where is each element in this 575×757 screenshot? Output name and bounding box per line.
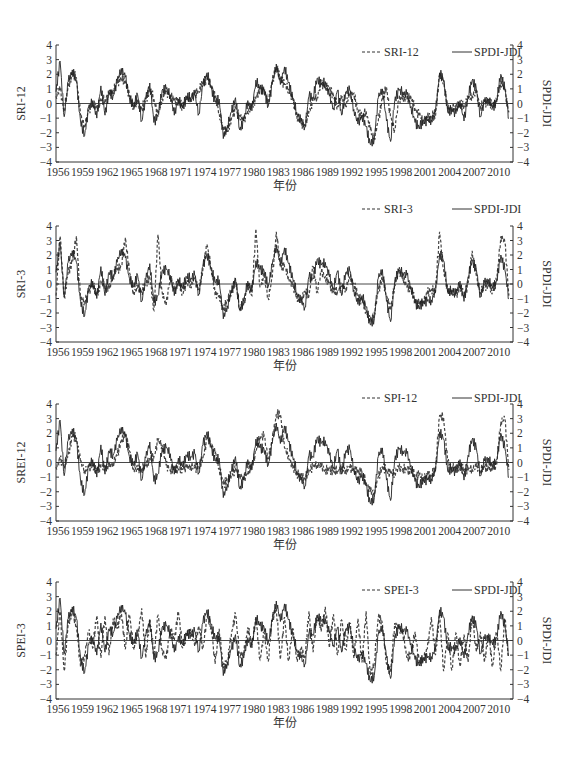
x-axis-label: 年份 [273, 359, 297, 373]
x-tick-label: 1995 [365, 346, 388, 358]
x-tick-label: 1968 [144, 166, 167, 178]
figure: 4433221100−1−1−2−2−3−3−4−419561959196219… [0, 0, 575, 757]
chart-panel-2: 4433221100−1−1−2−2−3−3−4−419561959196219… [14, 202, 554, 373]
x-tick-label: 1977 [218, 525, 241, 537]
y-tick-label-right: 3 [517, 235, 523, 247]
x-tick-label: 1992 [340, 166, 363, 178]
y-tick-label-left: 1 [46, 442, 52, 454]
x-axis-label: 年份 [273, 538, 297, 552]
x-tick-label: 2001 [414, 346, 437, 358]
legend: SPI-12SPDI-JDI [362, 391, 521, 405]
x-tick-label: 2004 [438, 525, 461, 537]
y-axis-label-right: SPDI-JDI [540, 439, 554, 486]
y-axis-label-right: SPDI-JDI [540, 617, 554, 664]
x-tick-label: 1989 [316, 703, 339, 715]
x-tick-label: 1980 [242, 703, 265, 715]
x-tick-label: 1956 [47, 525, 70, 537]
y-tick-label-left: 4 [46, 39, 52, 51]
y-tick-label-right: −4 [517, 336, 529, 348]
x-tick-label: 2007 [463, 166, 486, 178]
x-tick-label: 1992 [340, 525, 363, 537]
x-tick-label: 1962 [95, 525, 118, 537]
x-tick-label: 1962 [95, 166, 118, 178]
x-tick-label: 2001 [414, 166, 437, 178]
y-tick-label-left: 1 [46, 83, 52, 95]
x-tick-label: 1971 [169, 346, 192, 358]
y-tick-label-left: 2 [46, 427, 52, 439]
x-tick-label: 1974 [193, 703, 216, 715]
x-tick-label: 1998 [389, 166, 412, 178]
y-tick-label-right: −4 [517, 693, 529, 705]
x-tick-label: 2001 [414, 703, 437, 715]
y-tick-label-left: 1 [46, 264, 52, 276]
x-tick-label: 2007 [463, 525, 486, 537]
y-tick-label-left: 3 [46, 591, 52, 603]
y-tick-label-left: 4 [46, 220, 52, 232]
y-tick-label-right: 4 [517, 220, 523, 232]
x-tick-label: 1962 [95, 346, 118, 358]
y-tick-label-right: −2 [517, 486, 529, 498]
x-tick-label: 2010 [487, 166, 510, 178]
y-tick-label-right: −1 [517, 112, 529, 124]
x-tick-label: 1974 [193, 166, 216, 178]
x-tick-label: 1983 [267, 346, 290, 358]
y-tick-label-right: −4 [517, 515, 529, 527]
x-tick-label: 2007 [463, 703, 486, 715]
x-tick-label: 1992 [340, 703, 363, 715]
y-tick-label-left: 3 [46, 54, 52, 66]
x-tick-label: 1992 [340, 346, 363, 358]
y-tick-label-right: −3 [517, 500, 529, 512]
y-axis-label-right: SPDI-JDI [540, 260, 554, 307]
y-tick-label-right: 0 [517, 278, 523, 290]
x-tick-label: 1986 [291, 346, 314, 358]
y-tick-label-right: 2 [517, 427, 523, 439]
y-axis-label-left: SRI-12 [14, 86, 28, 121]
x-tick-label: 1995 [365, 525, 388, 537]
y-tick-label-right: −3 [517, 141, 529, 153]
x-tick-label: 1986 [291, 525, 314, 537]
y-tick-label-right: 2 [517, 605, 523, 617]
x-tick-label: 1959 [71, 346, 94, 358]
x-tick-label: 1989 [316, 525, 339, 537]
y-tick-label-right: 1 [517, 264, 523, 276]
x-tick-label: 1986 [291, 703, 314, 715]
y-tick-label-left: 4 [46, 398, 52, 410]
y-tick-label-right: 1 [517, 620, 523, 632]
x-tick-label: 2010 [487, 346, 510, 358]
x-tick-label: 1965 [120, 346, 143, 358]
legend-label: SRI-3 [384, 202, 413, 216]
y-tick-label-left: 3 [46, 413, 52, 425]
y-tick-label-right: 0 [517, 98, 523, 110]
legend: SPEI-3SPDI-JDI [362, 583, 521, 597]
x-tick-label: 1971 [169, 703, 192, 715]
legend-label: SPEI-3 [384, 583, 419, 597]
y-tick-label-left: −1 [40, 112, 52, 124]
legend-label: SPDI-JDI [474, 45, 521, 59]
y-tick-label-left: −3 [40, 500, 52, 512]
series-line-spi-12 [56, 409, 509, 495]
x-tick-label: 1977 [218, 346, 241, 358]
x-tick-label: 2010 [487, 525, 510, 537]
y-tick-label-right: 1 [517, 83, 523, 95]
y-axis-label-left: SPEI-3 [14, 623, 28, 658]
x-tick-label: 1980 [242, 166, 265, 178]
y-tick-label-left: 0 [46, 98, 52, 110]
y-tick-label-right: −2 [517, 664, 529, 676]
y-tick-label-right: −1 [517, 293, 529, 305]
y-tick-label-left: −3 [40, 322, 52, 334]
y-tick-label-left: −3 [40, 141, 52, 153]
y-tick-label-right: 0 [517, 635, 523, 647]
y-tick-label-left: −1 [40, 471, 52, 483]
series-line-sri-3 [56, 229, 509, 322]
x-tick-label: 1983 [267, 166, 290, 178]
x-tick-label: 2010 [487, 703, 510, 715]
x-tick-label: 1983 [267, 525, 290, 537]
x-tick-label: 1974 [193, 525, 216, 537]
legend-label: SRI-12 [384, 45, 419, 59]
y-tick-label-left: −2 [40, 486, 52, 498]
x-tick-label: 1956 [47, 166, 70, 178]
legend-label: SPI-12 [384, 391, 417, 405]
y-tick-label-left: −1 [40, 649, 52, 661]
y-tick-label-left: 3 [46, 235, 52, 247]
legend: SRI-3SPDI-JDI [362, 202, 521, 216]
